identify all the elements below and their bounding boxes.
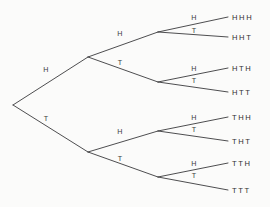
branch-label-htt: T [192,76,197,85]
branch-line-h-to-ht [88,57,158,82]
branch-label-hhh: H [191,13,196,22]
branch-line-h-to-hh [88,32,158,57]
branch-label-h: H [43,65,48,74]
outcome-hhh: HHH [232,13,253,22]
branch-label-hht: T [192,26,197,35]
branch-label-tt: T [118,154,123,163]
branch-label-ttt: T [192,171,197,180]
branch-line-t-to-th [88,131,158,152]
outcome-labels-group: HHHHHTHTHHTTTHHTHTTTHTTT [232,13,253,195]
coin-flip-tree-diagram: HTHTHTHTHTHTHT HHHHHTHTHHTTTHHTHTTTHTTT [0,0,270,207]
outcome-ttt: TTT [232,186,251,195]
branch-label-tht: T [192,125,197,134]
branch-line-t-to-tt [88,152,158,177]
outcome-hht: HHT [232,33,252,42]
branch-labels-group: HTHTHTHTHTHTHT [43,13,196,180]
branch-line-root-to-t [13,105,88,152]
outcome-htt: HTT [232,88,252,97]
branch-line-root-to-h [13,57,88,105]
branch-label-t: T [44,114,49,123]
outcome-hth: HTH [232,64,252,73]
branch-label-ht: T [118,58,123,67]
branch-label-th: H [117,127,122,136]
outcome-tht: THT [232,137,252,146]
tree-svg-canvas: HTHTHTHTHTHTHT HHHHHTHTHHTTTHHTHTTTHTTT [0,0,270,207]
outcome-tth: TTH [232,159,252,168]
outcome-thh: THH [232,113,252,122]
branch-label-tth: H [191,159,196,168]
branch-label-hh: H [117,29,122,38]
branch-label-thh: H [191,113,196,122]
branch-label-hth: H [191,64,196,73]
